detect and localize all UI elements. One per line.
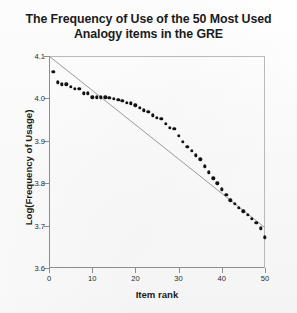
x-tick-label: 0: [37, 274, 61, 283]
x-tick: [265, 268, 266, 273]
x-tick: [49, 268, 50, 273]
x-tick: [92, 268, 93, 273]
trend-line: [49, 56, 265, 268]
chart-title: The Frequency of Use of the 50 Most Used…: [0, 12, 297, 42]
x-tick-label: 20: [123, 274, 147, 283]
chart-title-line-2: Analogy items in the GRE: [0, 27, 297, 42]
plot-area: [49, 56, 265, 268]
y-tick-label: 4.1: [19, 52, 45, 61]
x-tick: [179, 268, 180, 273]
x-tick-label: 50: [253, 274, 277, 283]
x-tick-label: 40: [210, 274, 234, 283]
x-tick-label: 10: [80, 274, 104, 283]
x-tick: [135, 268, 136, 273]
chart-figure: The Frequency of Use of the 50 Most Used…: [0, 0, 297, 313]
data-point: [263, 236, 266, 239]
chart-title-line-1: The Frequency of Use of the 50 Most Used: [26, 12, 272, 26]
x-tick: [222, 268, 223, 273]
x-tick-label: 30: [167, 274, 191, 283]
y-tick-label: 3.6: [19, 264, 45, 273]
y-axis-label: Log(Frequency of Usage): [23, 78, 34, 258]
x-axis-label: Item rank: [49, 289, 265, 300]
